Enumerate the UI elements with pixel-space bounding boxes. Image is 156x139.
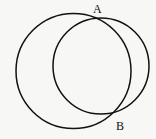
- large-circle: [16, 14, 131, 129]
- point-label-b: B: [116, 119, 124, 133]
- point-label-a: A: [93, 2, 102, 16]
- diagram-canvas: A B: [0, 0, 156, 139]
- small-circle: [53, 18, 149, 114]
